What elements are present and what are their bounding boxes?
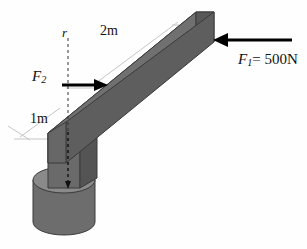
- beam-left-end-face: [48, 122, 66, 163]
- axis-label-r: r: [62, 26, 67, 39]
- force-f2-symbol: F: [32, 68, 41, 84]
- tick-1m-lower: [8, 126, 30, 140]
- force-f2-subscript: 2: [41, 74, 46, 85]
- axis-label-r-text: r: [62, 25, 67, 40]
- force-f1-arrowhead: [213, 33, 228, 47]
- force-label-f1: F1= 500N: [238, 52, 298, 68]
- dimension-label-1m: 1m: [30, 112, 48, 126]
- force-f1-value: = 500N: [252, 51, 298, 67]
- force-f1-arrow: [213, 33, 292, 47]
- dimension-label-2m: 2m: [100, 24, 118, 38]
- physics-figure: 2m 1m r F2 F1= 500N: [0, 0, 307, 249]
- force-f1-symbol: F: [238, 51, 247, 67]
- force-label-f2: F2: [32, 69, 46, 85]
